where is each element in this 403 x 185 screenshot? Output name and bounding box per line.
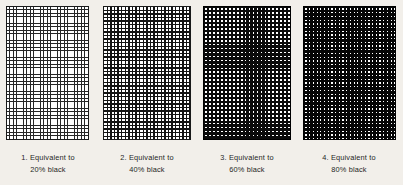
tint-caption-1-line1: 1. Equivalent to — [2, 152, 94, 164]
tint-caption-4-line1: 4. Equivalent to — [301, 152, 397, 164]
tint-caption-2-line1: 2. Equivalent to — [100, 152, 194, 164]
tint-swatch-3 — [203, 6, 291, 140]
tint-caption-4-line2: 80% black — [301, 164, 397, 176]
tint-grating-2 — [103, 6, 191, 140]
tint-grating-4 — [303, 6, 396, 140]
tint-grating-1 — [6, 6, 89, 140]
tint-caption-1: 1. Equivalent to 20% black — [2, 152, 94, 175]
tint-swatch-1 — [6, 6, 89, 140]
tint-caption-3: 3. Equivalent to 60% black — [200, 152, 294, 175]
tint-caption-2-line2: 40% black — [100, 164, 194, 176]
tint-caption-3-line1: 3. Equivalent to — [200, 152, 294, 164]
tint-caption-1-line2: 20% black — [2, 164, 94, 176]
tint-caption-4: 4. Equivalent to 80% black — [301, 152, 397, 175]
figure-halftone-tint-chart: 1. Equivalent to 20% black 2. Equivalent… — [0, 0, 403, 185]
tint-caption-3-line2: 60% black — [200, 164, 294, 176]
tint-grating-3 — [203, 6, 291, 140]
tint-swatch-2 — [103, 6, 191, 140]
tint-caption-2: 2. Equivalent to 40% black — [100, 152, 194, 175]
tint-swatch-4 — [303, 6, 396, 140]
